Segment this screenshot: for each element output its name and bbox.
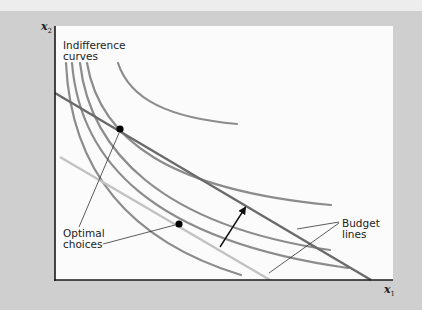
- optimal-point-lower: [175, 220, 182, 227]
- indifference-curve-3: [80, 63, 330, 250]
- indifference-curve-2: [72, 63, 348, 268]
- indifference-curve-5: [118, 63, 237, 124]
- y-axis-label: x2: [41, 20, 52, 35]
- optimal-point-higher: [116, 125, 123, 132]
- indifference-curves-label: Indifference curves: [63, 40, 125, 62]
- x-axis-label: x1: [384, 283, 395, 298]
- optimal-choices-label: Optimal choices: [63, 228, 105, 250]
- budget-lines-label: Budget lines: [342, 218, 380, 240]
